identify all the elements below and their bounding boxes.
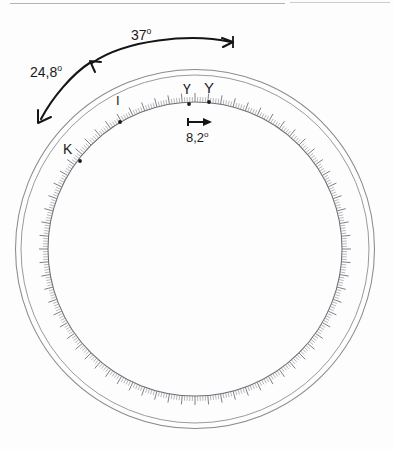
scale-tick-minor [281, 368, 284, 372]
scale-tick-major [41, 275, 50, 277]
scale-tick-minor [60, 180, 64, 182]
scale-tick-minor [179, 98, 180, 103]
scale-tick-minor [148, 389, 150, 394]
scale-tick-minor [321, 171, 325, 174]
scale-tick-minor [213, 395, 214, 400]
scale-tick-major [44, 209, 53, 211]
scale-tick-minor [252, 109, 254, 114]
scale-tick-minor [301, 143, 305, 146]
scale-tick-minor [153, 390, 154, 395]
scale-tick-minor [255, 383, 257, 388]
scale-tick-minor [335, 202, 340, 204]
angle-8-2-dimension [188, 118, 212, 126]
scale-tick-minor [238, 104, 239, 109]
scale-tick-minor [341, 228, 346, 229]
outer-ring [16, 70, 375, 429]
scale-tick-minor [277, 123, 280, 127]
scale-base-circle [48, 102, 342, 396]
scale-tick-minor [303, 145, 307, 148]
scale-tick-minor [158, 392, 159, 397]
angle-37-label: 37o [131, 28, 151, 42]
scale-tick-minor [161, 101, 162, 106]
scale-tick-minor [72, 160, 76, 163]
scale-tick-minor [45, 225, 50, 226]
scale-tick-minor [153, 103, 154, 108]
scale-tick-minor [46, 280, 51, 281]
scale-tick-major [76, 343, 83, 349]
scale-tick-minor [99, 363, 102, 367]
scale-tick-major [289, 362, 295, 369]
scale-tick-minor [218, 99, 219, 104]
scale-tick-minor [243, 105, 245, 110]
scale-tick-minor [330, 306, 335, 308]
scale-tick-minor [50, 292, 55, 293]
scale-tick-minor [262, 114, 264, 118]
scale-tick-minor [335, 294, 340, 296]
scale-tick-major [341, 235, 350, 236]
scale-tick-minor [84, 145, 88, 148]
scale-tick-minor [126, 114, 128, 118]
scale-tick-minor [325, 178, 329, 180]
scale-tick-minor [121, 378, 123, 382]
scale-tick-major [337, 287, 346, 289]
scale-tick-minor [61, 178, 65, 180]
scale-tick-minor [121, 116, 123, 120]
scale-tick-minor [312, 158, 316, 161]
scale-tick-major [48, 299, 56, 302]
scale-tick-minor [166, 393, 167, 398]
scale-tick-minor [133, 110, 135, 115]
scale-tick-minor [236, 103, 237, 108]
scale-tick-minor [314, 160, 318, 163]
scale-tick-major [76, 149, 83, 155]
scale-tick-minor [56, 309, 61, 311]
scale-tick-major [245, 387, 248, 395]
scale-tick-major [168, 394, 170, 403]
point-label-I: I [116, 94, 120, 107]
scale-tick-minor [311, 155, 315, 158]
scale-tick-minor [250, 385, 252, 390]
angle-37-dimension [92, 36, 233, 63]
scale-tick-minor [223, 100, 224, 105]
scale-tick-minor [266, 116, 268, 120]
scale-tick-minor [264, 379, 266, 383]
scale-tick-minor [338, 212, 343, 213]
scale-tick-minor [293, 136, 296, 140]
scale-tick-minor [54, 192, 59, 194]
scale-tick-minor [161, 392, 162, 397]
scale-tick-minor [293, 358, 296, 362]
scale-tick-minor [55, 306, 60, 308]
scale-tick-minor [331, 192, 336, 194]
angle-8-2-unit: o [204, 130, 208, 139]
scale-tick-minor [336, 292, 341, 293]
scale-tick-minor [51, 297, 56, 299]
scale-tick-minor [46, 277, 51, 278]
scale-tick-minor [106, 126, 109, 130]
scale-tick-minor [104, 366, 107, 370]
scale-tick-minor [325, 318, 329, 320]
scale-tick-major [40, 262, 49, 263]
scale-tick-minor [304, 147, 308, 150]
scale-tick-minor [93, 136, 96, 140]
scale-tick-minor [327, 313, 332, 315]
scale-tick-minor [341, 233, 346, 234]
scale-tick-minor [75, 340, 79, 343]
scale-tick-minor [317, 164, 321, 167]
scale-tick-minor [56, 187, 61, 189]
scale-tick-minor [51, 200, 56, 202]
scale-tick-minor [50, 205, 55, 206]
angle-24-8-unit: o [57, 63, 62, 73]
scale-tick-minor [46, 220, 51, 221]
scale-tick-major [289, 130, 295, 137]
scale-tick-minor [84, 349, 88, 352]
scale-tick-minor [136, 384, 138, 389]
scale-tick-minor [314, 335, 318, 338]
scale-tick-major [41, 222, 50, 224]
scale-tick-minor [317, 331, 321, 334]
scale-tick-minor [114, 120, 117, 124]
scale-tick-minor [297, 355, 300, 359]
scale-tick-minor [304, 347, 308, 350]
scale-tick-minor [320, 168, 324, 171]
scale-tick-major [299, 353, 305, 359]
scale-tick-major [44, 287, 53, 289]
scale-tick-minor [329, 187, 334, 189]
